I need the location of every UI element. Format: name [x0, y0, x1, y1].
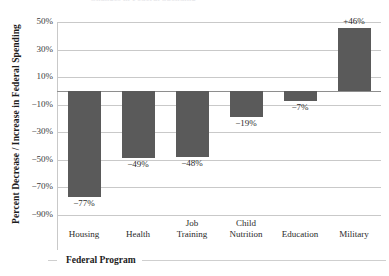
x-category-label: Health: [107, 229, 169, 240]
bar: [230, 91, 263, 117]
bar: [284, 91, 317, 101]
y-tick-label: −50%: [19, 154, 53, 164]
x-category-label: Job Training: [161, 218, 223, 239]
bar: [68, 91, 101, 197]
gridline: [57, 215, 381, 216]
zero-line: [57, 91, 381, 92]
bar: [122, 91, 155, 159]
x-category-label: Housing: [53, 229, 115, 240]
x-category-label: Child Nutrition: [215, 218, 277, 239]
y-tick-label: 30%: [19, 44, 53, 54]
y-tick-label: −30%: [19, 126, 53, 136]
gridline: [57, 50, 381, 51]
gridline: [57, 105, 381, 106]
bar-value-label: −19%: [217, 118, 275, 128]
y-tick-label: −90%: [19, 209, 53, 219]
x-axis-rule: [142, 260, 386, 261]
bar-value-label: +46%: [325, 16, 383, 26]
cut-off-chart-title: Changes in Federal Spending: [90, 0, 320, 1]
bar-value-label: −77%: [55, 198, 113, 208]
x-axis-title-row: Federal Program: [48, 253, 386, 267]
bar-value-label: −48%: [163, 158, 221, 168]
y-tick-label: −70%: [19, 181, 53, 191]
x-axis-rule-left: [48, 260, 57, 261]
chart-figure: Changes in Federal Spending Percent Decr…: [0, 0, 389, 276]
bar: [176, 91, 209, 157]
gridline: [57, 187, 381, 188]
x-category-label: Military: [323, 229, 385, 240]
bar-value-label: −49%: [109, 159, 167, 169]
y-tick-label: 50%: [19, 16, 53, 26]
x-axis-title: Federal Program: [57, 255, 142, 265]
gridline: [57, 132, 381, 133]
bar: [338, 28, 371, 91]
x-category-label: Education: [269, 229, 331, 240]
bar-value-label: −7%: [271, 102, 329, 112]
y-tick-label: 10%: [19, 71, 53, 81]
gridline: [57, 77, 381, 78]
plot-area: −77%−49%−48%−19%−7%+46%: [57, 22, 381, 215]
y-tick-label: −10%: [19, 99, 53, 109]
